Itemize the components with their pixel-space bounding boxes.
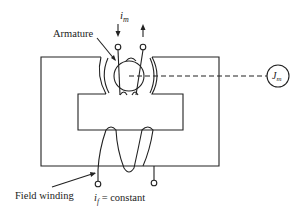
field-leader-arrowhead-icon	[90, 172, 96, 177]
inertia-label: Jm	[272, 70, 282, 83]
armature-terminal-right	[140, 44, 146, 50]
armature-loop-right	[132, 92, 138, 95]
field-winding-coil	[98, 127, 153, 181]
armature-loop-left	[120, 92, 127, 95]
armature-current-label: im	[120, 9, 129, 24]
armature-conductor-right	[136, 50, 143, 95]
field-terminal-left	[95, 181, 101, 187]
field-winding-leader-line	[52, 173, 95, 187]
armature-label: Armature	[53, 28, 94, 39]
arrowhead-down-icon	[116, 31, 121, 37]
field-current-label: if = constant	[94, 192, 145, 206]
armature-conductor-left	[118, 50, 120, 95]
stator-frame	[41, 57, 219, 166]
field-terminal-right	[151, 180, 157, 186]
left-pole-face	[104, 58, 109, 93]
field-winding-label: Field winding	[15, 190, 74, 201]
dc-motor-diagram: Armature im Jm Field winding if = consta…	[0, 0, 305, 219]
armature-terminal-left	[115, 44, 121, 50]
arrowhead-up-icon	[141, 24, 146, 30]
